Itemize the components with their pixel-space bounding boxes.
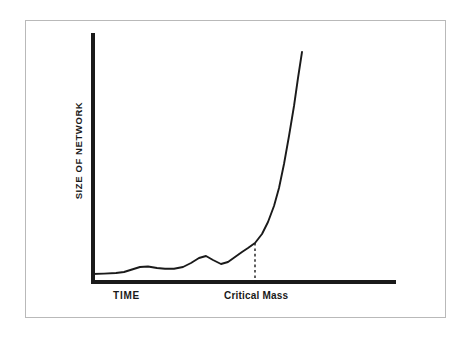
chart-plot-area [0, 0, 470, 338]
x-axis-label-critical-mass: Critical Mass [224, 290, 288, 301]
x-axis-label-time: TIME [113, 290, 140, 301]
chart-figure: SIZE OF NETWORK TIME Critical Mass [0, 0, 470, 338]
axes-group [91, 33, 396, 283]
series-group [92, 52, 302, 274]
y-axis-label: SIZE OF NETWORK [73, 101, 84, 201]
network-growth-curve [92, 52, 302, 274]
